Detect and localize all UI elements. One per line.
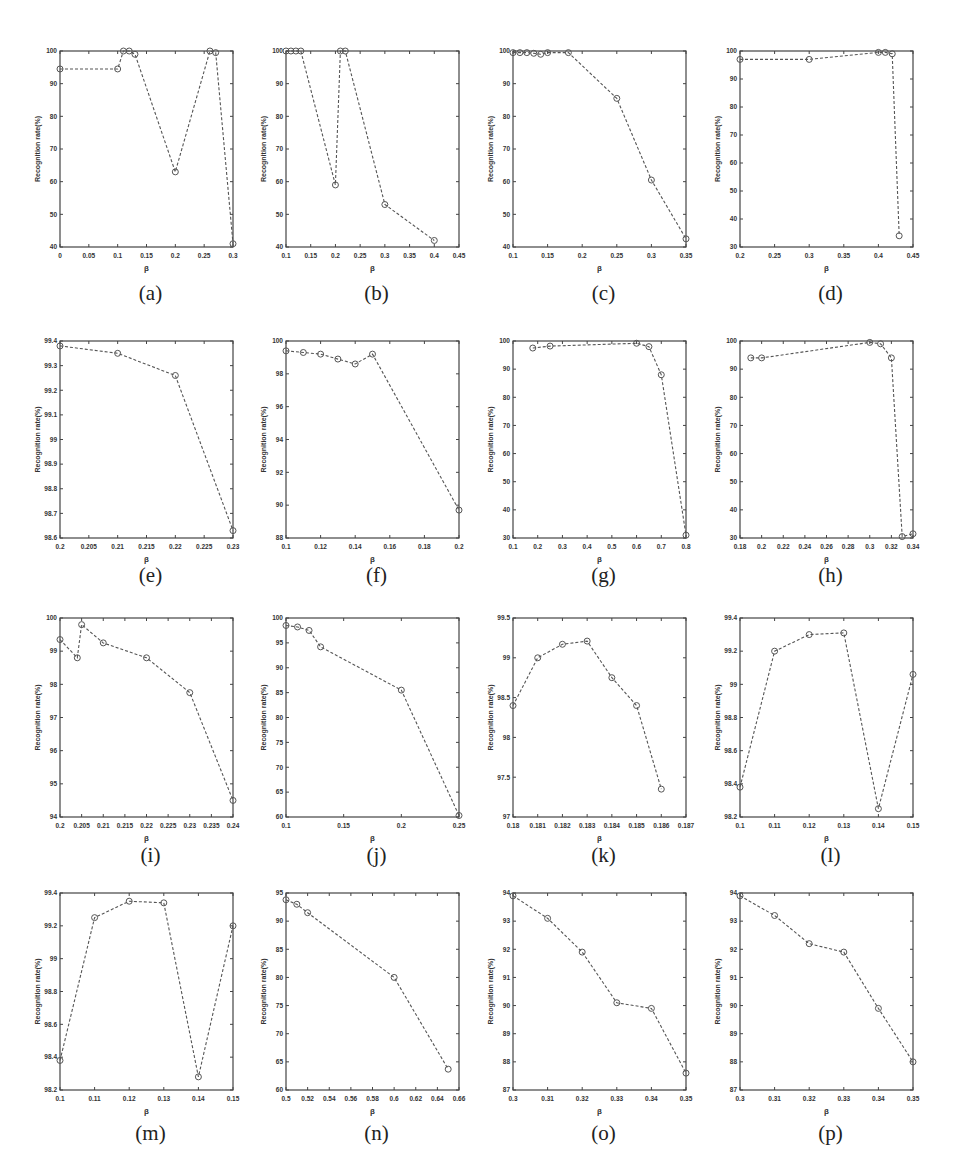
plot-frame xyxy=(286,893,459,1090)
plot-frame xyxy=(513,51,686,247)
y-tick-label: 70 xyxy=(276,1030,284,1037)
chart-panel-c: 0.10.150.20.250.30.35405060708090100βRec… xyxy=(487,47,693,305)
x-axis-label: β xyxy=(597,1107,602,1116)
x-tick-label: 0.205 xyxy=(73,822,90,829)
y-axis-label: Recognition rate(%) xyxy=(487,116,495,182)
chart-panel-p: 0.30.310.320.330.340.358788899091929394β… xyxy=(714,889,920,1145)
y-tick-label: 30 xyxy=(730,534,738,541)
y-tick-label: 99 xyxy=(50,647,58,654)
y-tick-label: 99.4 xyxy=(44,889,57,896)
x-tick-label: 0.2 xyxy=(331,252,340,259)
y-tick-label: 89 xyxy=(730,1030,738,1037)
y-tick-label: 60 xyxy=(503,178,511,185)
data-series-line xyxy=(60,901,233,1077)
y-tick-label: 99.2 xyxy=(44,387,57,394)
chart-panel-d: 0.20.250.30.350.40.4530405060708090100βR… xyxy=(714,47,920,305)
y-tick-label: 90 xyxy=(503,80,511,87)
plot-frame xyxy=(286,618,459,817)
x-tick-label: 0.11 xyxy=(88,1095,101,1102)
y-tick-label: 100 xyxy=(726,47,737,54)
plot-frame xyxy=(286,51,459,247)
y-tick-label: 70 xyxy=(503,145,511,152)
x-tick-label: 0.22 xyxy=(140,822,153,829)
y-tick-label: 85 xyxy=(276,689,284,696)
chart-panel-l: 0.10.110.120.130.140.1598.298.498.698.89… xyxy=(714,614,920,867)
x-tick-label: 0.11 xyxy=(768,822,781,829)
y-axis-label: Recognition rate(%) xyxy=(260,684,268,750)
chart-panel-m: 0.10.110.120.130.140.1598.298.498.698.89… xyxy=(34,889,240,1145)
x-tick-label: 0.22 xyxy=(169,543,182,550)
y-tick-label: 100 xyxy=(272,47,283,54)
panel-label: (k) xyxy=(591,843,616,867)
y-tick-label: 90 xyxy=(503,1002,511,1009)
y-tick-label: 99.4 xyxy=(44,337,57,344)
x-tick-label: 0.215 xyxy=(138,543,155,550)
plot-frame xyxy=(740,51,913,247)
y-axis-label: Recognition rate(%) xyxy=(260,116,268,182)
x-tick-label: 0.182 xyxy=(554,822,571,829)
x-tick-label: 0.24 xyxy=(799,543,812,550)
y-tick-label: 92 xyxy=(276,469,284,476)
data-point-marker xyxy=(172,169,178,175)
y-tick-label: 92 xyxy=(503,946,511,953)
panel-label: (e) xyxy=(139,563,162,587)
y-tick-label: 40 xyxy=(50,243,58,250)
x-tick-label: 0.58 xyxy=(366,1095,379,1102)
y-tick-label: 99.1 xyxy=(44,411,57,418)
y-tick-label: 88 xyxy=(503,1058,511,1065)
chart-panel-i: 0.20.2050.210.2150.220.2250.230.2350.249… xyxy=(34,614,240,867)
y-tick-label: 60 xyxy=(730,450,738,457)
x-tick-label: 0.3 xyxy=(380,252,389,259)
x-tick-label: 0.35 xyxy=(403,252,416,259)
x-tick-label: 0.15 xyxy=(304,252,317,259)
x-tick-label: 0.52 xyxy=(301,1095,314,1102)
y-tick-label: 50 xyxy=(503,211,511,218)
x-tick-label: 0.1 xyxy=(281,543,290,550)
y-axis-label: Recognition rate(%) xyxy=(714,958,722,1024)
data-series-line xyxy=(286,626,459,816)
y-tick-label: 97 xyxy=(503,813,511,820)
y-tick-label: 100 xyxy=(272,614,283,621)
chart-panel-k: 0.180.1810.1820.1830.1840.1850.1860.1879… xyxy=(487,614,695,867)
y-tick-label: 94 xyxy=(503,889,511,896)
x-tick-label: 0.32 xyxy=(803,1095,816,1102)
y-tick-label: 100 xyxy=(46,47,57,54)
y-tick-label: 93 xyxy=(730,917,738,924)
x-tick-label: 0.28 xyxy=(842,543,855,550)
y-tick-label: 98.8 xyxy=(44,485,57,492)
y-tick-label: 80 xyxy=(276,974,284,981)
y-tick-label: 80 xyxy=(503,394,511,401)
y-tick-label: 96 xyxy=(50,747,58,754)
x-tick-label: 0.31 xyxy=(768,1095,781,1102)
data-series-line xyxy=(751,342,913,536)
chart-panel-f: 0.10.120.140.160.180.2889092949698100βRe… xyxy=(260,337,464,587)
y-tick-label: 65 xyxy=(276,1058,284,1065)
y-tick-label: 90 xyxy=(276,664,284,671)
y-tick-label: 98.8 xyxy=(44,988,57,995)
y-tick-label: 40 xyxy=(730,215,738,222)
y-tick-label: 87 xyxy=(503,1086,511,1093)
y-tick-label: 30 xyxy=(503,534,511,541)
data-point-marker xyxy=(579,949,585,955)
y-axis-label: Recognition rate(%) xyxy=(34,684,42,750)
x-tick-label: 0.181 xyxy=(530,822,547,829)
data-point-marker xyxy=(634,703,640,709)
x-tick-label: 0.1 xyxy=(281,822,290,829)
y-axis-label: Recognition rate(%) xyxy=(34,116,42,182)
plot-frame xyxy=(60,51,233,247)
data-point-marker xyxy=(772,913,778,919)
y-tick-label: 70 xyxy=(503,422,511,429)
y-tick-label: 90 xyxy=(276,501,284,508)
y-tick-label: 75 xyxy=(276,739,284,746)
y-tick-label: 92 xyxy=(730,946,738,953)
y-tick-label: 99 xyxy=(503,654,511,661)
y-tick-label: 88 xyxy=(276,534,284,541)
y-tick-label: 98.8 xyxy=(724,714,737,721)
panel-label: (p) xyxy=(818,1121,843,1145)
data-series-line xyxy=(513,641,661,789)
x-tick-label: 0.183 xyxy=(579,822,596,829)
panel-label: (m) xyxy=(135,1121,165,1145)
y-tick-label: 98 xyxy=(503,734,511,741)
y-tick-label: 98.4 xyxy=(724,780,737,787)
x-tick-label: 0.34 xyxy=(872,1095,885,1102)
